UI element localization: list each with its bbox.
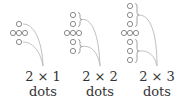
figure-2x3 (121, 3, 138, 62)
pointer-curve (139, 51, 157, 66)
dot (16, 21, 21, 26)
dot (127, 39, 132, 44)
dot (127, 57, 132, 62)
dot (121, 30, 126, 35)
label-2x2-formula: 2 × 2 (80, 69, 120, 84)
brace-icon (78, 40, 82, 54)
dot (16, 39, 21, 44)
dot (127, 30, 132, 35)
dot (70, 48, 75, 53)
dot (70, 39, 75, 44)
label-2x3-unit: dots (137, 84, 177, 99)
label-2x3: 2 × 3 dots (137, 69, 177, 99)
label-2x1-formula: 2 × 1 (23, 69, 63, 84)
label-2x3-formula: 2 × 3 (137, 69, 177, 84)
figure-2x1 (10, 21, 27, 44)
figure-2x2-curves (82, 19, 100, 66)
dot (70, 21, 75, 26)
figure-2x2 (64, 12, 81, 53)
brace-icon (135, 40, 139, 63)
dot (70, 30, 75, 35)
dot (127, 21, 132, 26)
dot (16, 30, 21, 35)
label-2x1-unit: dots (23, 84, 63, 99)
label-2x2-unit: dots (80, 84, 120, 99)
pointer-curve (82, 46, 100, 66)
brace-icon (78, 13, 82, 27)
brace-icon (135, 4, 139, 27)
dot (76, 30, 81, 35)
label-2x2: 2 × 2 dots (80, 69, 120, 99)
dot (64, 30, 69, 35)
dot (133, 30, 138, 35)
dot (10, 30, 15, 35)
dot (127, 48, 132, 53)
dot (22, 30, 27, 35)
dot (127, 12, 132, 17)
pointer-curve (82, 19, 100, 66)
dot (127, 3, 132, 8)
dot (70, 12, 75, 17)
figure-2x3-curves (139, 15, 157, 66)
label-2x1: 2 × 1 dots (23, 69, 63, 99)
